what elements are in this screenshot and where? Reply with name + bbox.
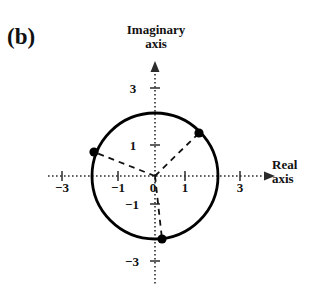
root-marker-upper-left xyxy=(89,147,98,156)
real-tick-label-neg3: −3 xyxy=(48,180,76,196)
real-tick-label-pos3: 3 xyxy=(226,180,254,196)
complex-plane-plot xyxy=(0,0,318,295)
imaginary-axis-arrowhead xyxy=(151,61,160,72)
radius-line-upper-left xyxy=(94,152,155,176)
radius-line-upper-right xyxy=(155,133,199,176)
imag-tick-label-neg3: −3 xyxy=(118,254,146,270)
imag-tick-label-pos1: 1 xyxy=(120,138,146,154)
real-tick-label-pos1: 1 xyxy=(171,180,199,196)
figure-canvas: (b) Imaginary axis Real axis −3 −1 1 3 xyxy=(0,0,318,295)
imag-tick-label-pos3: 3 xyxy=(120,81,146,97)
root-marker-bottom xyxy=(157,234,166,243)
imag-tick-label-neg1: −1 xyxy=(118,197,146,213)
real-tick-label-neg1: −1 xyxy=(104,180,132,196)
root-marker-upper-right xyxy=(194,128,203,137)
real-axis-arrowhead xyxy=(264,172,275,181)
origin-label: 0 xyxy=(143,180,163,196)
